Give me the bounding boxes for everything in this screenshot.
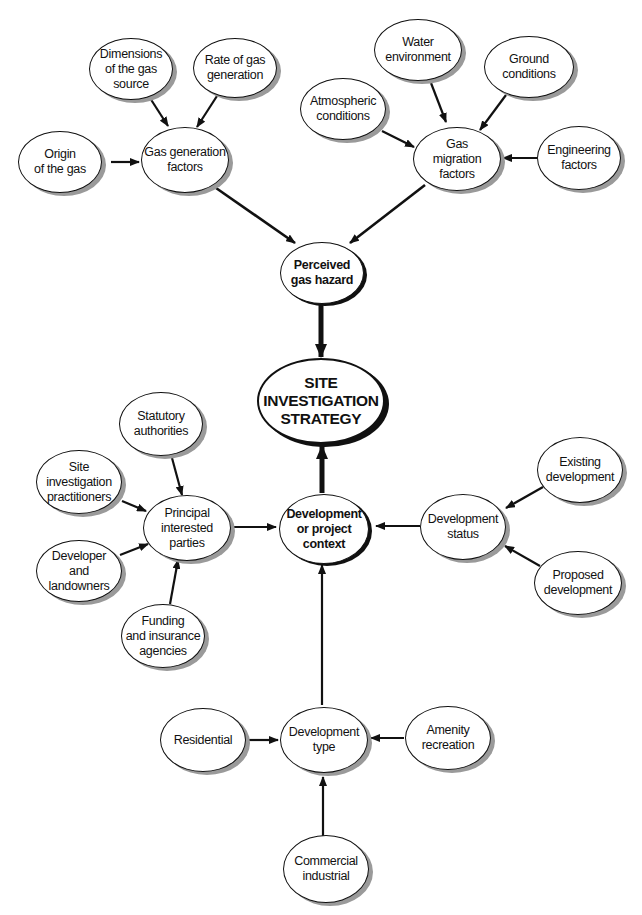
arrow-water-to-gasmig — [431, 83, 446, 122]
node-development-status: Development status — [420, 494, 506, 560]
arrow-developer-to-principal — [120, 544, 148, 555]
arrow-gasmig-to-perceived — [350, 185, 425, 243]
node-rate-of-gas-generation: Rate of gas generation — [193, 38, 277, 98]
arrow-ground-to-gasmig — [480, 95, 506, 130]
node-gas-generation-factors: Gas generation factors — [141, 127, 229, 193]
node-existing-development: Existing development — [537, 437, 623, 503]
arrow-existing-to-status — [506, 487, 543, 508]
arrow-atmospheric-to-gasmig — [382, 131, 414, 147]
arrow-dimensions-to-gasgen — [150, 98, 168, 126]
node-engineering-factors: Engineering factors — [537, 126, 621, 190]
arrow-statutory-to-principal — [172, 458, 182, 495]
node-site-investigation-practitioners: Site investigation practitioners — [36, 450, 122, 514]
arrow-proposed-to-status — [505, 546, 540, 566]
arrow-gasgen-to-perceived — [216, 188, 295, 243]
arrow-rate-to-gasgen — [197, 96, 217, 127]
node-development-type: Development type — [280, 707, 368, 773]
node-ground-conditions: Ground conditions — [484, 36, 574, 98]
node-principal-interested-parties: Principal interested parties — [143, 495, 231, 561]
node-gas-migration-factors: Gas migration factors — [413, 127, 501, 191]
node-proposed-development: Proposed development — [534, 551, 622, 615]
node-atmospheric-conditions: Atmospheric conditions — [300, 78, 386, 140]
node-residential: Residential — [160, 708, 246, 772]
arrow-practitioners-to-principal — [122, 501, 146, 511]
node-water-environment: Water environment — [374, 19, 462, 81]
node-amenity-recreation: Amenity recreation — [405, 706, 491, 770]
node-statutory-authorities: Statutory authorities — [119, 392, 203, 456]
node-funding-and-insurance-agencies: Funding and insurance agencies — [121, 604, 205, 668]
node-origin-of-gas: Origin of the gas — [18, 131, 102, 193]
node-site-investigation-strategy: SITE INVESTIGATION STRATEGY — [257, 358, 385, 444]
node-perceived-gas-hazard: Perceived gas hazard — [280, 242, 364, 304]
node-dimensions-of-gas-source: Dimensions of the gas source — [89, 38, 173, 100]
node-development-or-project-context: Development or project context — [279, 494, 369, 564]
node-commercial-industrial: Commercial industrial — [283, 835, 369, 903]
node-developer-and-landowners: Developer and landowners — [36, 540, 122, 602]
arrow-funding-to-principal — [170, 560, 178, 604]
